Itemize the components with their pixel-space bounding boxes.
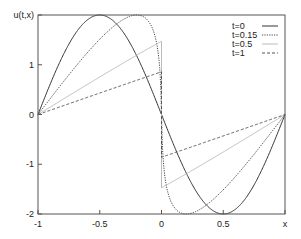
- y-tick-label: 0: [29, 110, 34, 120]
- y-tick-label: -1: [26, 159, 34, 169]
- x-tick-label: -1: [34, 219, 42, 229]
- y-tick-label: 1: [29, 60, 34, 70]
- y-tick-label: u(t,x): [13, 10, 34, 20]
- line-chart: -1-0.500.5x-2-101u(t,x) t=0t=0.15t=0.5t=…: [0, 0, 301, 239]
- x-tick-label: x: [283, 219, 288, 229]
- x-tick-label: 0: [159, 219, 164, 229]
- x-tick-label: 0.5: [217, 219, 230, 229]
- legend-label: t=1: [232, 48, 245, 58]
- legend: t=0t=0.15t=0.5t=1: [232, 21, 278, 58]
- x-tick-label: -0.5: [92, 219, 108, 229]
- y-tick-label: -2: [26, 209, 34, 219]
- series-t-0-5: [38, 41, 285, 188]
